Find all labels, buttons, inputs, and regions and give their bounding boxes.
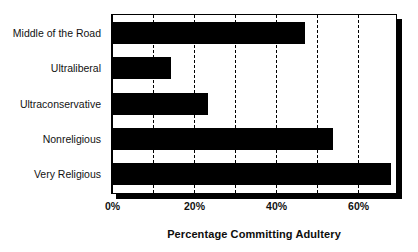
bar [112,93,208,115]
category-label: Ultraliberal [0,62,101,74]
x-tick-label: 0% [105,200,120,212]
category-label: Very Religious [0,168,101,180]
x-tick-label: 20% [184,200,205,212]
bar-chart-figure: Middle of the RoadUltraliberalUltraconse… [0,0,418,252]
x-tick-label: 40% [266,200,287,212]
plot-inner [112,15,396,193]
x-tick-label: 60% [348,200,369,212]
category-label: Ultraconservative [0,98,101,110]
chart-title [120,0,370,2]
bar [112,57,171,79]
plot-area [111,14,397,194]
bar [112,128,333,150]
x-axis-title: Percentage Committing Adultery [111,228,397,240]
bar [112,22,305,44]
category-label: Middle of the Road [0,27,101,39]
category-label: Nonreligious [0,133,101,145]
category-axis-labels: Middle of the RoadUltraliberalUltraconse… [0,15,106,194]
x-axis-tick-labels: 0%20%40%60% [111,200,397,216]
bar [112,163,391,185]
